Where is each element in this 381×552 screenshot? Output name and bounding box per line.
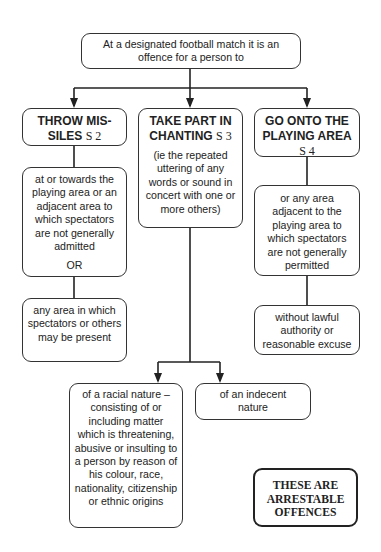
offence-chanting-box: TAKE PART IN CHANTING S 3 (ie the repeat…	[138, 108, 243, 228]
condition-text: any area in which spectators or others m…	[28, 304, 122, 343]
playing-area-condition-1-box: or any area adjacent to the playing area…	[254, 185, 360, 276]
root-statement-box: At a designated football match it is an …	[81, 33, 301, 69]
offence-title-line1: THROW MIS-	[38, 114, 112, 128]
note-line2: ARRESTABLE	[267, 493, 345, 506]
section-reference: S 2	[86, 129, 102, 143]
chanting-indecent-box: of an indecent nature	[195, 383, 311, 420]
condition-text: or any area adjacent to the playing area…	[268, 192, 347, 271]
throw-missiles-condition-1-box: at or towards the playing area or an adj…	[22, 167, 127, 277]
throw-missiles-condition-2-box: any area in which spectators or others m…	[22, 298, 127, 362]
condition-text: of a racial nature – consisting of or in…	[75, 388, 177, 507]
chanting-definition: (ie the repeated uttering of any words o…	[143, 149, 238, 216]
arrestable-offences-note: THESE ARE ARRESTABLE OFFENCES	[253, 468, 358, 527]
offence-playing-area-box: GO ONTO THE PLAYING AREA S 4	[254, 108, 360, 157]
playing-area-condition-2-box: without lawful authority or reasonable e…	[254, 305, 360, 355]
offence-throw-missiles-box: THROW MIS- SILES S 2	[22, 108, 127, 146]
offence-title-line2: SILES	[48, 129, 83, 143]
condition-text: at or towards the playing area or an adj…	[32, 173, 117, 252]
condition-text: of an indecent nature	[220, 388, 287, 413]
condition-text: without lawful authority or reasonable e…	[263, 311, 352, 350]
offence-title-line1: GO ONTO THE	[265, 114, 349, 128]
or-connector: OR	[27, 259, 122, 272]
section-reference: S 4	[299, 144, 315, 158]
offence-title-line2: PLAYING AREA	[262, 129, 351, 143]
offence-title-line1: TAKE PART IN	[149, 114, 231, 128]
note-line1: THESE ARE	[273, 479, 338, 492]
offence-title-line2: CHANTING	[149, 129, 212, 143]
root-statement-text: At a designated football match it is an …	[103, 38, 279, 63]
section-reference: S 3	[216, 129, 232, 143]
note-line3: OFFENCES	[275, 506, 337, 519]
chanting-racial-box: of a racial nature – consisting of or in…	[69, 383, 183, 528]
